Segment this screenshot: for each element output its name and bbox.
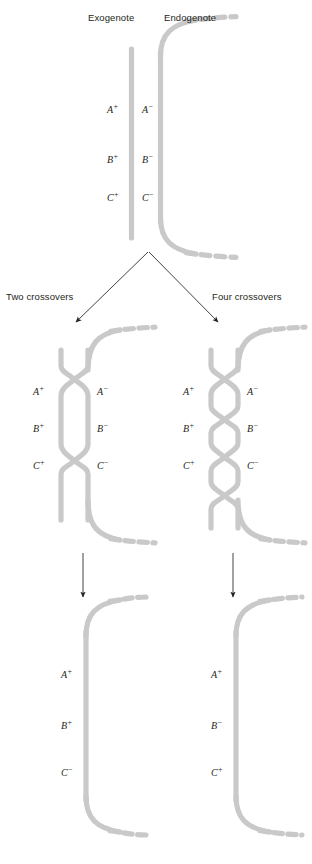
left-result-top-curve <box>86 600 120 636</box>
endogenote-strand-bottom-dashed <box>186 253 236 258</box>
figure-root: Exogenote Endogenote A+ B+ C+ A− B− C− T… <box>0 0 312 864</box>
allele-left-result-b: B+ <box>61 720 72 731</box>
left-endogenote-top-curve <box>88 330 120 370</box>
branch-label-four-crossovers: Four crossovers <box>212 291 282 302</box>
result-arrows <box>83 553 233 597</box>
right-endogenote-bottom-dashed <box>261 539 305 543</box>
allele-top-exogenote-b: B+ <box>107 154 118 165</box>
right-endogenote-top-curve <box>238 330 270 370</box>
right-result-top-dashed <box>260 597 302 601</box>
right-result-top-curve <box>236 600 270 636</box>
branch-label-two-crossovers: Two crossovers <box>6 291 73 302</box>
right-result-bottom-dashed <box>260 831 302 835</box>
allele-right-endogenote-b: B− <box>247 423 258 434</box>
allele-left-result-c: C− <box>61 767 72 778</box>
top-panel-strands <box>132 17 237 258</box>
endogenote-strand-bottom-curve <box>161 218 197 254</box>
figure-caption <box>8 855 304 864</box>
left-endogenote-bottom-curve <box>88 500 120 540</box>
left-result-strand <box>86 597 146 835</box>
allele-top-endogenote-a: A− <box>142 104 153 115</box>
allele-right-endogenote-c: C− <box>247 460 258 471</box>
right-panel-strands <box>211 327 305 543</box>
allele-left-endogenote-b: B− <box>97 423 108 434</box>
exogenote-header-label: Exogenote <box>88 12 134 23</box>
right-result-bottom-curve <box>236 796 270 832</box>
left-result-bottom-dashed <box>110 831 146 835</box>
allele-top-endogenote-c: C− <box>142 192 153 203</box>
allele-left-endogenote-a: A− <box>97 386 108 397</box>
right-endogenote-bottom-curve <box>238 500 270 540</box>
left-result-bottom-curve <box>86 796 120 832</box>
left-panel-strands <box>61 327 155 543</box>
allele-top-endogenote-b: B− <box>142 154 153 165</box>
right-result-strand <box>236 597 302 835</box>
branch-arrow-left <box>76 252 148 322</box>
endogenote-strand-top-curve <box>161 20 197 56</box>
allele-left-exogenote-a: A+ <box>33 386 44 397</box>
diagram-svg <box>0 0 312 864</box>
left-endogenote-top-dashed <box>111 327 155 331</box>
branch-arrows <box>76 252 218 322</box>
left-result-top-dashed <box>110 597 146 601</box>
endogenote-header-label: Endogenote <box>164 12 216 23</box>
allele-left-exogenote-c: C+ <box>33 460 44 471</box>
branch-arrow-right <box>149 252 218 322</box>
allele-right-result-a: A+ <box>211 669 222 680</box>
allele-right-result-b: B− <box>211 720 222 731</box>
allele-right-exogenote-c: C+ <box>183 460 194 471</box>
allele-right-endogenote-a: A− <box>247 386 258 397</box>
allele-right-exogenote-b: B+ <box>183 423 194 434</box>
allele-left-exogenote-b: B+ <box>33 423 44 434</box>
allele-top-exogenote-c: C+ <box>107 192 118 203</box>
allele-left-endogenote-c: C− <box>97 460 108 471</box>
allele-right-exogenote-a: A+ <box>183 386 194 397</box>
allele-top-exogenote-a: A+ <box>107 104 118 115</box>
right-endogenote-top-dashed <box>261 327 305 331</box>
left-endogenote-bottom-dashed <box>111 539 155 543</box>
allele-right-result-c: C+ <box>211 767 222 778</box>
allele-left-result-a: A+ <box>61 669 72 680</box>
